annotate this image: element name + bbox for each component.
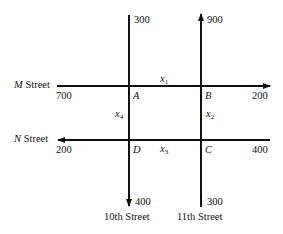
eleventh-street-label: 11th Street (177, 212, 222, 223)
flow-tenth-bottom: 400 (135, 197, 151, 208)
unknown-x3: x3 (160, 144, 168, 156)
intersection-c: C (205, 145, 212, 156)
unknown-x2: x2 (206, 109, 214, 121)
tenth-street-label: 10th Street (104, 212, 150, 223)
intersection-a: A (133, 91, 139, 102)
flow-m-left: 700 (56, 91, 72, 102)
unknown-x1: x1 (160, 74, 168, 86)
flow-eleventh-bottom: 300 (207, 197, 223, 208)
flow-eleventh-top: 900 (207, 15, 223, 26)
flow-m-right: 200 (252, 91, 268, 102)
m-street-label: M Street (14, 80, 50, 91)
n-street-label: N Street (14, 134, 48, 145)
flow-n-left: 200 (56, 145, 72, 156)
unknown-x4: x4 (115, 109, 123, 121)
flow-n-right: 400 (252, 145, 268, 156)
flow-tenth-top: 300 (134, 15, 150, 26)
intersection-d: D (133, 145, 141, 156)
intersection-b: B (205, 91, 211, 102)
